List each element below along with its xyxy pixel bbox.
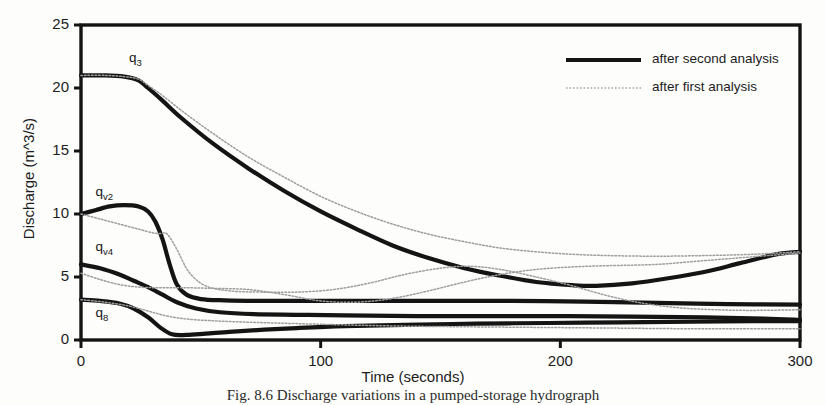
x-axis-label: Time (seconds) — [0, 368, 826, 385]
x-tick-300: 300 — [770, 352, 826, 369]
curve-label-q8: q8 — [95, 305, 108, 323]
series-line-qv2-second — [81, 205, 800, 305]
y-tick-5: 5 — [29, 267, 69, 284]
series-line-q3-first — [81, 75, 800, 256]
y-axis-label: Discharge (m^3/s) — [20, 89, 37, 269]
legend-label-0: after second analysis — [652, 51, 779, 66]
curve-label-qv2: qv2 — [95, 184, 113, 202]
x-tick-100: 100 — [291, 352, 351, 369]
figure-caption: Fig. 8.6 Discharge variations in a pumpe… — [0, 387, 826, 404]
axes-frame — [81, 25, 800, 340]
series-line-q3-second — [81, 75, 800, 286]
legend-label-1: after first analysis — [652, 79, 757, 94]
x-tick-200: 200 — [530, 352, 590, 369]
legend-swatches — [566, 60, 641, 88]
data-series — [81, 75, 800, 335]
figure-container: Discharge (m^3/s) Time (seconds) 0510152… — [0, 0, 826, 405]
y-tick-20: 20 — [29, 78, 69, 95]
y-tick-0: 0 — [29, 330, 69, 347]
y-tick-10: 10 — [29, 204, 69, 221]
y-tick-15: 15 — [29, 141, 69, 158]
curve-label-q3: q3 — [129, 50, 142, 68]
y-tick-25: 25 — [29, 15, 69, 32]
curve-label-qv4: qv4 — [95, 239, 113, 257]
x-tick-0: 0 — [51, 352, 111, 369]
